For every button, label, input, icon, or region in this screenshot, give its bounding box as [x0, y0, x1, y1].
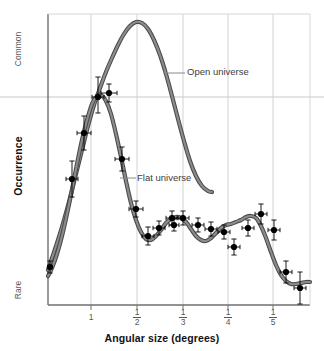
y-tick-label-common: Common [13, 19, 23, 79]
data-point-marker [95, 94, 101, 100]
data-point-marker [208, 226, 214, 232]
annotation-open-universe: Open universe [187, 66, 249, 77]
data-point-marker [283, 269, 289, 275]
x-tick-label-1-5: 1 5 [260, 308, 286, 327]
y-axis-title: Occurrence [12, 121, 24, 211]
x-tick-label-1-4: 1 4 [215, 308, 241, 327]
data-point-marker [69, 176, 75, 182]
fraction-denominator: 4 [224, 318, 232, 327]
x-tick-label-1-3: 1 3 [170, 308, 196, 327]
data-point-marker [106, 90, 112, 96]
data-point-marker [297, 285, 303, 291]
data-point-marker [231, 244, 237, 250]
data-point-marker [171, 222, 177, 228]
x-tick-label-1-2: 1 2 [124, 308, 150, 327]
fraction-denominator: 3 [179, 318, 187, 327]
data-point-marker [245, 225, 251, 231]
data-point-marker [195, 222, 201, 228]
fraction-one-quarter: 1 4 [224, 308, 232, 326]
x-tick-text-1: 1 [89, 312, 94, 322]
annotation-flat-universe: Flat universe [137, 172, 191, 183]
fraction-one-third: 1 3 [179, 308, 187, 326]
data-point-marker [119, 156, 125, 162]
data-point-marker [47, 264, 53, 270]
data-point-marker [133, 206, 139, 212]
data-point-marker [156, 225, 162, 231]
y-tick-label-rare: Rare [13, 267, 23, 313]
data-point-marker [221, 229, 227, 235]
plot-background [48, 14, 310, 305]
data-point-marker [180, 215, 186, 221]
data-point-marker [271, 227, 277, 233]
chart-figure: Angular size (degrees) Occurrence Common… [0, 0, 324, 351]
data-point-marker [145, 233, 151, 239]
fraction-denominator: 5 [269, 318, 277, 327]
x-tick-label-1: 1 [78, 312, 104, 322]
fraction-one-half: 1 2 [133, 308, 141, 326]
data-point-marker [258, 211, 264, 217]
fraction-one-fifth: 1 5 [269, 308, 277, 326]
x-axis-title: Angular size (degrees) [0, 332, 324, 344]
data-point-marker [81, 130, 87, 136]
fraction-denominator: 2 [133, 318, 141, 327]
